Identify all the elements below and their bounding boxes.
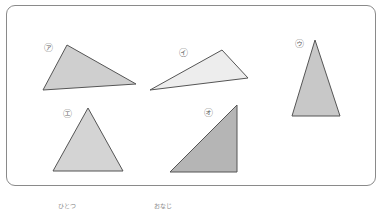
- label-e: ㋓: [63, 110, 72, 119]
- triangle-a: [43, 45, 136, 90]
- triangle-u: [292, 40, 340, 116]
- footer-right-text: おなじ: [154, 203, 172, 209]
- label-a: ㋐: [44, 44, 53, 53]
- label-i: ㋑: [179, 49, 188, 58]
- label-o: ㋔: [204, 109, 213, 118]
- footer-left-text: ひとつ: [58, 203, 76, 209]
- label-u: ㋒: [295, 40, 304, 49]
- triangle-i: [150, 50, 248, 90]
- triangles-canvas: [0, 0, 383, 209]
